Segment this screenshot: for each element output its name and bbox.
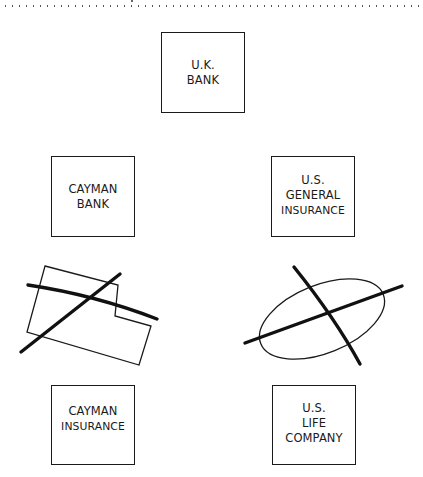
cropped-text-fragment bbox=[131, 0, 133, 2]
entity-box-us-life-company: U.S. LIFE COMPANY bbox=[272, 385, 356, 465]
entity-box-cayman-bank: CAYMAN BANK bbox=[51, 156, 135, 237]
entity-label-us-general-insurance: U.S. GENERAL INSURANCE bbox=[281, 173, 345, 218]
label-line: BANK bbox=[68, 197, 117, 212]
label-line: INSURANCE bbox=[281, 203, 345, 218]
label-line: U.K. bbox=[187, 58, 219, 73]
label-line: U.S. bbox=[281, 173, 345, 188]
label-line: GENERAL bbox=[281, 188, 345, 203]
entity-box-uk-bank: U.K. BANK bbox=[161, 32, 245, 113]
crossed-out-ellipse-icon bbox=[245, 263, 402, 375]
label-line: INSURANCE bbox=[61, 419, 125, 434]
entity-box-us-general-insurance: U.S. GENERAL INSURANCE bbox=[271, 156, 355, 237]
crossed-out-polygon-icon bbox=[21, 266, 157, 365]
label-line: U.S. bbox=[285, 401, 342, 416]
label-line: CAYMAN bbox=[68, 182, 117, 197]
entity-label-cayman-bank: CAYMAN BANK bbox=[68, 182, 117, 212]
label-line: COMPANY bbox=[285, 431, 342, 446]
label-line: CAYMAN bbox=[61, 404, 125, 419]
entity-box-cayman-insurance: CAYMAN INSURANCE bbox=[51, 385, 135, 465]
label-line: LIFE bbox=[285, 416, 342, 431]
entity-label-uk-bank: U.K. BANK bbox=[187, 58, 219, 88]
label-line: BANK bbox=[187, 73, 219, 88]
dotted-separator-line bbox=[2, 5, 422, 7]
entity-label-cayman-insurance: CAYMAN INSURANCE bbox=[61, 404, 125, 434]
entity-label-us-life-company: U.S. LIFE COMPANY bbox=[285, 401, 342, 446]
